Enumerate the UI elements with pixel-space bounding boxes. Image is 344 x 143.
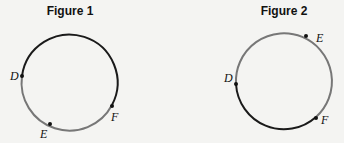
label-d-1: D: [9, 69, 19, 83]
label-d-2: D: [223, 71, 233, 85]
point-d-1: [20, 74, 24, 78]
label-e-2: E: [315, 31, 324, 45]
figure-1-title: Figure 1: [47, 4, 94, 18]
figure-1-major-arc: [22, 35, 118, 105]
label-e-1: E: [39, 127, 48, 141]
label-f-1: F: [110, 110, 119, 124]
figure-2-gray-arc: [236, 33, 332, 117]
point-d-2: [234, 82, 238, 86]
figure-2-black-arc: [236, 84, 316, 129]
diagram-canvas: Figure 1 D E F Figure 2 D E F: [0, 0, 344, 143]
figure-1: Figure 1 D E F: [9, 4, 119, 141]
figure-1-minor-arc: [22, 76, 112, 131]
figure-2: Figure 2 D E F: [223, 4, 332, 129]
figure-2-title: Figure 2: [261, 4, 308, 18]
point-e-1: [48, 122, 52, 126]
point-f-2: [314, 116, 318, 120]
point-f-1: [110, 104, 114, 108]
label-f-2: F: [320, 113, 329, 127]
point-e-2: [304, 34, 308, 38]
